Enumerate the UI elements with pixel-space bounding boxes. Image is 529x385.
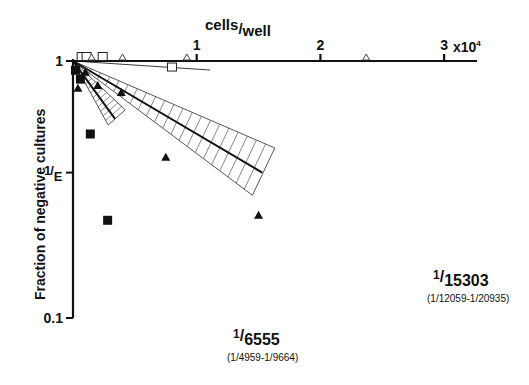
ci-part: 9664 (273, 352, 296, 363)
ci-part: 4959 (239, 352, 262, 363)
wedge-edge-lower (73, 61, 252, 195)
ci-part: ) (506, 293, 509, 304)
y-tick-label: 0.1 (44, 310, 64, 326)
filled-square-marker (103, 216, 112, 225)
series-ci-label: (1/12059-1/20935) (427, 293, 509, 304)
series-label-den: 15303 (444, 272, 489, 289)
confidence-wedges (73, 61, 275, 195)
x-tick-label: 3 (440, 37, 448, 53)
series-label: 1/15303 (433, 268, 489, 289)
open-square-marker (98, 53, 107, 61)
filled-square-marker (86, 129, 95, 138)
axes (70, 59, 477, 318)
x-multiplier-exp: 4 (476, 39, 481, 48)
wedge-hatch (220, 132, 238, 171)
filled-triangle-marker (254, 211, 263, 219)
x-axis-title: cells/well (205, 16, 271, 39)
open-triangle-marker (363, 54, 370, 60)
y-tick-den: E (54, 169, 63, 184)
control-fit-line (73, 61, 210, 70)
wedge-hatch (236, 140, 256, 183)
fit-line (73, 61, 262, 173)
open-square-marker (167, 63, 176, 71)
series-label: 1/6555 (233, 327, 280, 348)
wedge-hatch (244, 144, 265, 189)
x-axis-title-a: cells (205, 16, 238, 33)
wedge-hatch (212, 128, 229, 165)
series-labels: 1/6555(1/4959-1/9664)1/15303(1/12059-1/2… (227, 268, 509, 363)
x-multiplier: x104 (453, 39, 481, 55)
open-triangle-marker (183, 54, 190, 60)
ci-part: 12059 (439, 293, 467, 304)
series-ci-label: (1/4959-1/9664) (227, 352, 298, 363)
y-tick-label: 1 (55, 53, 63, 69)
filled-triangle-marker (81, 68, 90, 76)
x-tick-label: 1 (193, 37, 201, 53)
x-multiplier-base: x10 (453, 39, 477, 55)
filled-triangle-marker (161, 153, 170, 161)
markers (71, 53, 370, 225)
ci-part: ) (295, 352, 298, 363)
series-label-den: 6555 (244, 331, 280, 348)
filled-triangle-marker (73, 84, 82, 92)
y-axis-title: Fraction of negative cultures (32, 108, 48, 300)
wedge-hatch (228, 136, 247, 177)
filled-square-marker (76, 75, 85, 84)
ci-part: 20935 (478, 293, 506, 304)
x-tick-label: 2 (317, 37, 325, 53)
wedge-end (252, 148, 274, 195)
chart: 12311/E0.1 cells/well x104 Fraction of n… (0, 0, 529, 385)
open-triangle-marker (119, 54, 126, 60)
fit-lines (73, 61, 262, 173)
